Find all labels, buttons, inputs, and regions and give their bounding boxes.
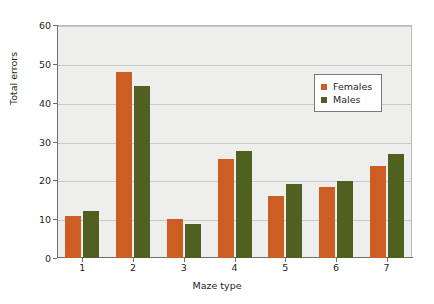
y-tick-mark	[53, 258, 57, 259]
bar-males-2	[134, 86, 150, 258]
y-tick-mark	[53, 25, 57, 26]
y-tick-mark	[53, 142, 57, 143]
x-tick-mark	[82, 258, 83, 262]
bar-females-6	[319, 187, 335, 258]
plot-area	[57, 25, 412, 258]
gridline	[58, 143, 411, 144]
chart-legend: Females Males	[314, 74, 382, 112]
legend-label-females: Females	[333, 82, 372, 92]
bar-females-7	[370, 166, 386, 258]
legend-item-females: Females	[321, 80, 372, 93]
y-tick-mark	[53, 219, 57, 220]
legend-swatch-females	[321, 84, 327, 90]
y-tick-label: 10	[0, 214, 51, 225]
x-axis-title: Maze type	[0, 280, 434, 291]
bar-females-4	[218, 159, 234, 258]
gridline	[58, 26, 411, 27]
x-tick-mark	[336, 258, 337, 262]
gridline	[58, 65, 411, 66]
x-tick-mark	[133, 258, 134, 262]
bar-females-5	[268, 196, 284, 258]
y-tick-label: 20	[0, 175, 51, 186]
bar-females-1	[65, 216, 81, 258]
x-tick-label: 4	[231, 262, 237, 273]
x-tick-mark	[184, 258, 185, 262]
bar-males-6	[337, 181, 353, 258]
legend-item-males: Males	[321, 93, 372, 106]
y-tick-label: 0	[0, 253, 51, 264]
x-tick-label: 7	[384, 262, 390, 273]
bar-females-3	[167, 219, 183, 258]
x-tick-label: 2	[130, 262, 136, 273]
x-tick-label: 3	[181, 262, 187, 273]
bar-males-3	[185, 224, 201, 258]
legend-swatch-males	[321, 97, 327, 103]
y-axis-title: Total errors	[8, 52, 19, 105]
x-tick-label: 1	[79, 262, 85, 273]
y-tick-label: 30	[0, 136, 51, 147]
bar-males-4	[236, 151, 252, 258]
legend-label-males: Males	[333, 95, 360, 105]
gridline	[58, 181, 411, 182]
bar-chart-figure: 0102030405060 1234567 Total errors Maze …	[0, 0, 434, 304]
gridline	[58, 220, 411, 221]
y-tick-mark	[53, 180, 57, 181]
x-tick-mark	[285, 258, 286, 262]
bar-males-1	[83, 211, 99, 258]
bar-females-2	[116, 72, 132, 258]
x-tick-mark	[387, 258, 388, 262]
y-axis-line	[57, 25, 58, 258]
y-tick-mark	[53, 103, 57, 104]
x-tick-label: 6	[333, 262, 339, 273]
y-tick-mark	[53, 64, 57, 65]
x-tick-label: 5	[282, 262, 288, 273]
x-tick-mark	[235, 258, 236, 262]
bar-males-7	[388, 154, 404, 258]
y-tick-label: 60	[0, 20, 51, 31]
bar-males-5	[286, 184, 302, 258]
